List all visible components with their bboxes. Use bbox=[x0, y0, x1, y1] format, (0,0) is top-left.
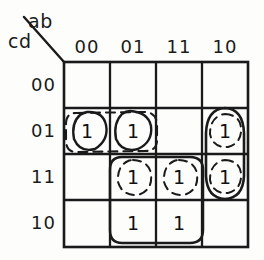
cell-r11-c11: 1 bbox=[156, 166, 202, 188]
column-header-00: 00 bbox=[64, 36, 110, 57]
karnaugh-map-diagram: ab cd 00 01 11 10 00 01 11 10 1 1 1 1 1 … bbox=[0, 0, 264, 260]
column-header-10: 10 bbox=[202, 36, 248, 57]
axis-label-cd: cd bbox=[8, 30, 32, 52]
cell-r01-c10: 1 bbox=[202, 120, 248, 142]
row-header-10: 10 bbox=[12, 212, 56, 233]
row-header-01: 01 bbox=[12, 120, 56, 141]
cell-r10-c11: 1 bbox=[156, 212, 202, 234]
column-header-11: 11 bbox=[156, 36, 202, 57]
cell-r10-c01: 1 bbox=[110, 212, 156, 234]
row-header-00: 00 bbox=[12, 74, 56, 95]
cell-r11-c10: 1 bbox=[202, 166, 248, 188]
row-header-11: 11 bbox=[12, 166, 56, 187]
column-header-01: 01 bbox=[110, 36, 156, 57]
cell-r01-c00: 1 bbox=[64, 120, 110, 142]
cell-r01-c01: 1 bbox=[110, 120, 156, 142]
axis-label-ab: ab bbox=[28, 10, 53, 32]
cell-r11-c01: 1 bbox=[110, 166, 156, 188]
